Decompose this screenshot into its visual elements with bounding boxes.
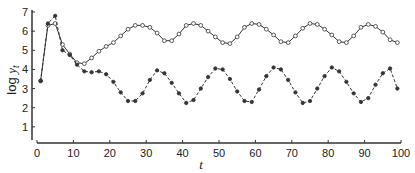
y-tick-label: 1 [22, 121, 28, 133]
x-tick-label: 100 [392, 147, 410, 159]
data-point [68, 53, 71, 56]
data-point [395, 41, 399, 45]
data-point [286, 41, 290, 45]
data-point [46, 22, 49, 25]
y-tick-label: 4 [22, 63, 28, 75]
y-tick-label: 2 [22, 102, 28, 114]
data-point [396, 87, 399, 90]
y-tick-label: 5 [22, 44, 28, 56]
x-tick-label: 10 [67, 147, 79, 159]
data-point [228, 77, 231, 80]
data-point [243, 25, 247, 29]
data-point [301, 26, 305, 30]
x-axis-label: t [199, 157, 203, 172]
data-point [170, 39, 174, 43]
data-point [155, 31, 159, 35]
y-tick-label: 3 [22, 83, 28, 95]
series-line [41, 16, 398, 103]
data-point [119, 34, 123, 38]
data-point [264, 27, 268, 31]
data-point [228, 42, 232, 46]
svg-text:log yt: log yt [4, 65, 21, 95]
data-point [286, 78, 289, 81]
data-point [199, 24, 203, 28]
data-point [185, 101, 188, 104]
y-axis-label: log yt [4, 65, 21, 95]
data-point [366, 23, 370, 27]
data-point [330, 33, 334, 37]
data-point [199, 87, 202, 90]
data-point [345, 41, 349, 45]
data-point [104, 45, 108, 49]
data-point [250, 22, 254, 26]
data-point [279, 68, 282, 71]
data-point [133, 24, 137, 28]
data-point [243, 99, 246, 102]
x-tick-label: 0 [34, 147, 40, 159]
data-point [374, 24, 378, 28]
data-point [235, 35, 239, 39]
data-point [381, 72, 384, 75]
data-point [308, 99, 311, 102]
data-point [214, 67, 217, 70]
data-point [148, 25, 152, 29]
x-tick-label: 60 [249, 147, 261, 159]
data-point [97, 49, 101, 53]
x-tick-label: 20 [104, 147, 116, 159]
y-tick-label: 6 [22, 25, 28, 37]
data-point [192, 22, 196, 26]
data-point [213, 35, 217, 39]
data-point [155, 69, 158, 72]
data-point [250, 100, 253, 103]
data-point [294, 91, 297, 94]
data-point [352, 34, 356, 38]
data-point [272, 33, 276, 37]
series-group [39, 14, 400, 105]
data-point [301, 101, 304, 104]
data-point [388, 67, 391, 70]
x-tick-label: 90 [358, 147, 370, 159]
y-axis-label-prefix: log [4, 74, 19, 95]
data-point [323, 27, 327, 31]
data-point [134, 99, 137, 102]
data-point [112, 41, 116, 45]
data-point [192, 98, 195, 101]
data-point [345, 80, 348, 83]
data-point [75, 63, 78, 66]
data-point [90, 56, 94, 60]
data-point [112, 80, 115, 83]
data-point [265, 74, 268, 77]
data-point [184, 24, 188, 28]
data-point [141, 24, 145, 28]
data-point [206, 75, 209, 78]
data-point [119, 91, 122, 94]
axes: 12345670102030405060708090100 [22, 6, 410, 159]
x-tick-label: 80 [322, 147, 334, 159]
data-point [381, 30, 385, 34]
x-tick-label: 50 [213, 147, 225, 159]
x-tick-label: 40 [176, 147, 188, 159]
data-point [279, 40, 283, 44]
data-point [272, 66, 275, 69]
data-point [126, 27, 130, 31]
data-point [141, 92, 144, 95]
data-point [367, 96, 370, 99]
data-point [177, 32, 181, 36]
data-point [126, 99, 129, 102]
data-point [308, 22, 312, 26]
data-point [359, 100, 362, 103]
data-point [170, 81, 173, 84]
series-line [41, 24, 398, 81]
data-point [104, 73, 107, 76]
x-tick-label: 70 [286, 147, 298, 159]
data-point [330, 66, 333, 69]
data-point [206, 29, 210, 33]
data-point [83, 70, 86, 73]
x-tick-label: 30 [140, 147, 152, 159]
data-point [337, 40, 341, 44]
data-point [61, 49, 64, 52]
data-point [359, 25, 363, 29]
data-point [97, 70, 100, 73]
data-point [148, 78, 151, 81]
data-point [315, 23, 319, 27]
